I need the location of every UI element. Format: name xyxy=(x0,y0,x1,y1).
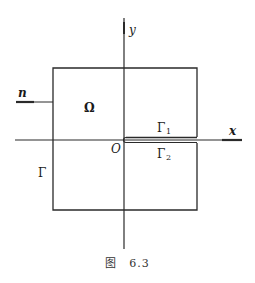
svg-text:Γ: Γ xyxy=(157,121,165,135)
figure-6-3: y x O Ω n Γ Γ 1 Γ 2 图6.3 xyxy=(0,0,255,283)
boundary-gamma-label: Γ xyxy=(38,166,46,180)
caption-number: 6.3 xyxy=(129,257,150,270)
figure-caption: 图6.3 xyxy=(0,254,255,270)
gamma-1-label: Γ 1 xyxy=(157,121,171,136)
domain-omega-label: Ω xyxy=(84,101,95,115)
svg-text:Γ: Γ xyxy=(157,147,165,161)
normal-n-label: n xyxy=(18,86,27,100)
gamma-2-label: Γ 2 xyxy=(157,147,171,162)
outer-boundary-gamma xyxy=(53,68,197,210)
y-axis-label: y xyxy=(128,23,136,37)
origin-label: O xyxy=(111,142,121,156)
caption-prefix: 图 xyxy=(105,257,117,270)
x-axis-label: x xyxy=(228,124,237,138)
svg-text:1: 1 xyxy=(166,127,171,136)
svg-text:2: 2 xyxy=(166,153,171,162)
